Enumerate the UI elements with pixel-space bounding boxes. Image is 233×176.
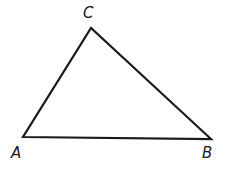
- vertex-label-b: B: [202, 146, 212, 161]
- vertex-label-a: A: [11, 146, 21, 161]
- triangle-abc: [23, 28, 211, 139]
- triangle-figure: [0, 0, 233, 176]
- vertex-label-c: C: [83, 6, 93, 21]
- triangle-diagram: A B C: [0, 0, 233, 176]
